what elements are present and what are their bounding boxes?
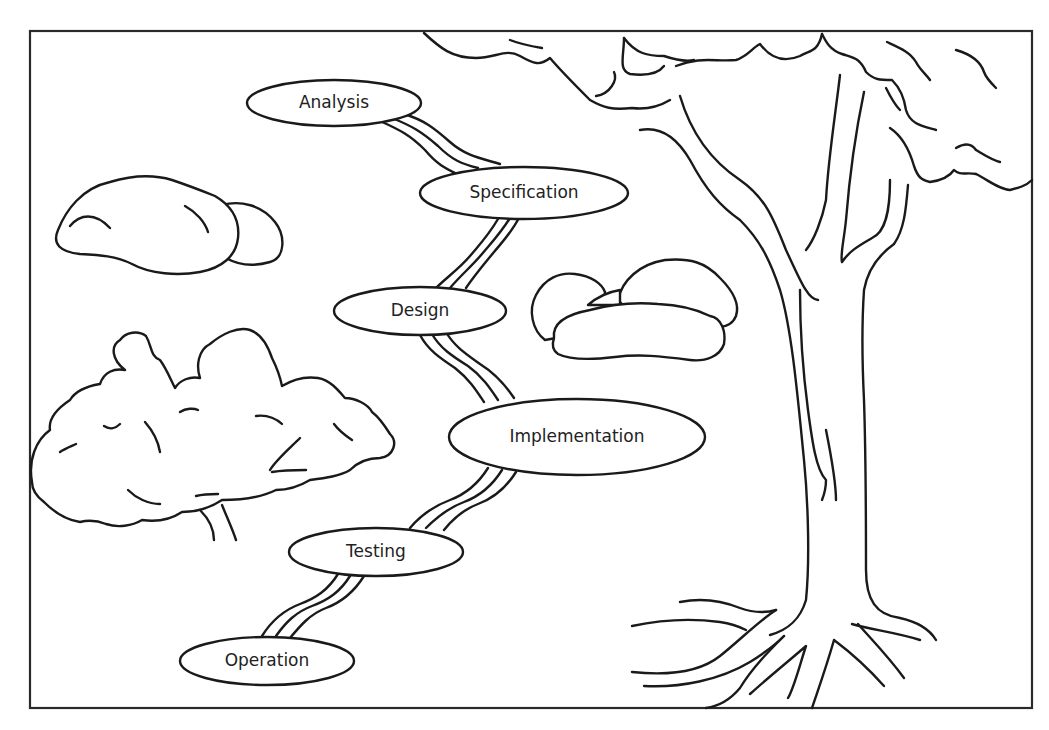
phase-label-implementation: Implementation [510, 426, 645, 446]
phase-label-design: Design [391, 300, 450, 320]
phase-label-operation: Operation [225, 650, 310, 670]
waterfall-diagram: Analysis Specification Design Implementa… [0, 0, 1049, 730]
rock-cluster-right-icon [532, 260, 737, 361]
bush-icon [31, 329, 394, 540]
phase-testing: Testing [289, 528, 463, 576]
phase-label-testing: Testing [345, 541, 406, 561]
phase-operation: Operation [180, 637, 354, 685]
phase-implementation: Implementation [449, 399, 705, 475]
phase-design: Design [334, 287, 506, 335]
phase-label-analysis: Analysis [299, 92, 369, 112]
rock-cluster-left-icon [56, 176, 282, 274]
tree-icon [424, 33, 1032, 708]
phase-label-specification: Specification [469, 182, 578, 202]
phase-specification: Specification [420, 167, 628, 219]
picture-frame [30, 31, 1032, 708]
phase-analysis: Analysis [247, 80, 421, 126]
